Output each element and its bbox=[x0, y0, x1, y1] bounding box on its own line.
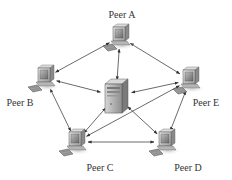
peer-b-label: Peer B bbox=[7, 98, 34, 108]
connection-peer-e-peer-d bbox=[170, 91, 185, 131]
connection-peer-b-peer-c bbox=[50, 89, 71, 131]
connection-peer-c-peer-e bbox=[87, 86, 180, 137]
peer-d-label: Peer D bbox=[174, 163, 202, 173]
connection-peer-d-server bbox=[128, 107, 157, 134]
server-icon bbox=[100, 79, 132, 116]
peer-a-label: Peer A bbox=[109, 10, 136, 20]
peer-a-computer-icon bbox=[103, 24, 136, 51]
peer-d-computer-icon bbox=[149, 129, 182, 156]
peer-b-computer-icon bbox=[28, 65, 61, 92]
connection-peer-e-server bbox=[132, 83, 179, 93]
network-nodes bbox=[28, 24, 206, 156]
connection-peer-b-server bbox=[57, 81, 101, 92]
connection-peer-a-server bbox=[117, 49, 119, 80]
diagram-canvas bbox=[0, 0, 232, 180]
connection-peer-a-peer-e bbox=[130, 43, 180, 73]
p2p-network-diagram: Peer A Peer B Peer E Peer C Peer D bbox=[0, 0, 232, 180]
peer-c-computer-icon bbox=[59, 129, 92, 156]
peer-e-label: Peer E bbox=[193, 98, 219, 108]
peer-e-computer-icon bbox=[173, 67, 206, 94]
peer-c-label: Peer C bbox=[87, 163, 114, 173]
connection-peer-a-peer-b bbox=[56, 43, 110, 72]
